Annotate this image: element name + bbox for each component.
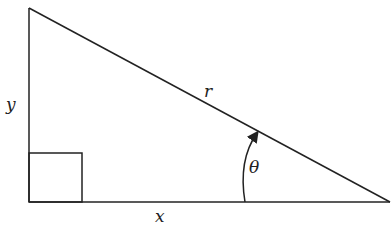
side-r [29,8,390,202]
label-x: x [155,206,165,226]
right-angle-marker [29,153,82,202]
label-y: y [5,94,16,114]
right-triangle-diagram: y x r θ [0,0,392,231]
label-theta: θ [249,157,259,177]
label-r: r [204,81,213,101]
triangle [29,8,390,202]
